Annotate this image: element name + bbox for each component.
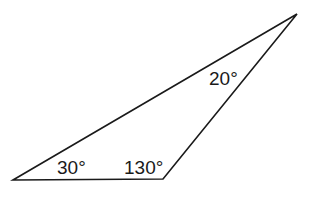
angle-label-bottom-right: 130°	[124, 158, 163, 177]
angle-label-top: 20°	[209, 69, 238, 88]
angle-label-bottom-left: 30°	[57, 158, 86, 177]
triangle-shape	[13, 14, 297, 180]
